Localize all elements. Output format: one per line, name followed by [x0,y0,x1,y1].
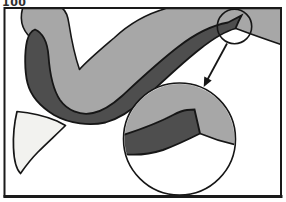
figure-panel: 100 [0,0,286,202]
diagram-canvas: 100 [0,0,286,202]
